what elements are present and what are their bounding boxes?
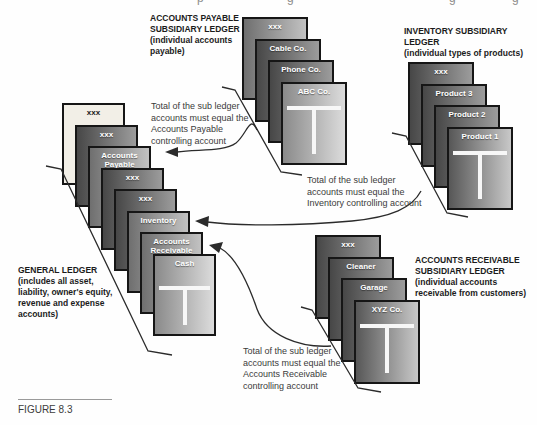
- cropped-glyph: g: [512, 0, 519, 5]
- general-ledger-card-7: Cash: [153, 254, 216, 336]
- cropped-glyph: p: [197, 0, 204, 5]
- inventory-arrowhead-icon: [195, 216, 209, 227]
- accounts-payable-note: Total of the sub ledgeraccounts must equ…: [151, 101, 249, 147]
- ledger-card-label: Accounts Receivable: [142, 234, 201, 255]
- accounts-receivable-arrowhead-icon: [209, 242, 223, 253]
- accounts-payable-ledger-heading: ACCOUNTS PAYABLESUBSIDIARY LEDGER(indivi…: [150, 13, 240, 57]
- t-account-stem: [312, 110, 316, 154]
- ledger-card-label: xxx: [103, 170, 162, 182]
- accounts-receivable-note: Total of the sub ledgeraccounts must equ…: [243, 346, 341, 392]
- ledger-card-label: Product 2: [436, 107, 498, 119]
- ledger-card-label: Inventory: [129, 213, 188, 225]
- ledger-card-label: Phone Co.: [270, 62, 332, 74]
- inventory-note: Total of the sub ledgeraccounts must equ…: [307, 175, 422, 210]
- accounts-receivable-card-3: XYZ Co.: [354, 300, 420, 384]
- figure-caption: FIGURE 8.3: [18, 404, 72, 415]
- ledger-card-label: xxx: [410, 64, 472, 76]
- general-ledger-heading: GENERAL LEDGER(includes all asset,liabil…: [18, 265, 112, 320]
- figure-caption-rule: [18, 399, 112, 400]
- ledger-card-label: xxx: [317, 237, 379, 249]
- cropped-glyph: g: [449, 0, 456, 5]
- inventory-card-3: Product 1: [447, 127, 513, 210]
- t-account-stem: [385, 328, 389, 373]
- ledger-card-label: XYZ Co.: [356, 302, 418, 314]
- t-account-stem: [183, 290, 187, 325]
- ledger-card-label: ABC Co.: [283, 84, 345, 96]
- cropped-glyph: g: [287, 0, 294, 5]
- accounts-payable-arrowhead-icon: [165, 147, 178, 157]
- ledger-figure-diagram: p g g g ACCOUNTS PAYABLESUBSIDIARY LEDGE…: [0, 0, 537, 425]
- ledger-card-label: Cash: [155, 256, 214, 268]
- accounts-receivable-ledger-heading: ACCOUNTS RECEIVABLESUBSIDIARY LEDGER(ind…: [415, 255, 526, 299]
- cropped-text-row: p g g g: [0, 0, 537, 7]
- ledger-card-label: xxx: [64, 105, 123, 117]
- ledger-card-label: xxx: [77, 127, 136, 139]
- ledger-card-label: xxx: [116, 191, 175, 203]
- ledger-card-label: Product 3: [423, 86, 485, 98]
- ledger-card-label: xxx: [244, 19, 306, 31]
- ledger-card-label: Garage: [343, 280, 405, 292]
- t-account-stem: [478, 155, 482, 199]
- inventory-ledger-heading: INVENTORY SUBSIDIARYLEDGER(individual ty…: [404, 26, 523, 59]
- accounts-payable-card-3: ABC Co.: [281, 82, 347, 165]
- ledger-card-label: Cable Co.: [257, 41, 319, 53]
- ledger-card-label: Cleaner: [330, 259, 392, 271]
- ledger-card-label: Product 1: [449, 129, 511, 141]
- ledger-card-label: Accounts Payable: [90, 148, 149, 169]
